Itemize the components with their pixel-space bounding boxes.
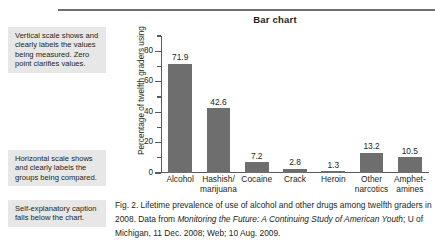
bar <box>245 162 269 173</box>
y-tick-label: 60 <box>115 76 153 85</box>
annotation-caption: Self-explanatory caption falls below the… <box>8 200 106 227</box>
y-tick-major <box>155 172 161 173</box>
y-tick-minor <box>157 35 162 36</box>
y-tick-major <box>155 142 161 143</box>
bar-group: 42.6 <box>199 36 237 173</box>
y-axis-labels: 020406080 <box>115 14 153 194</box>
y-tick-major <box>155 51 161 52</box>
x-tick-label: Othernarcotics <box>352 175 390 194</box>
bar-value-label: 2.8 <box>276 157 314 167</box>
bar <box>321 171 345 173</box>
y-tick-minor <box>157 66 162 67</box>
y-tick-label: 40 <box>115 107 153 116</box>
bar <box>360 153 384 173</box>
x-tick-label: Cocaine <box>238 175 276 185</box>
chart-title: Bar chart <box>115 14 435 25</box>
bar-value-label: 10.5 <box>391 146 429 156</box>
plot-area: 71.942.67.22.81.313.210.5 <box>161 36 429 173</box>
caption-source-title: Monitoring the Future: A Continuing Stud… <box>177 214 403 224</box>
annotation-horizontal-scale: Horizontal scale shows and clearly label… <box>8 150 106 186</box>
figure-caption: Fig. 2. Lifetime prevalence of use of al… <box>115 198 435 241</box>
bar <box>283 169 307 173</box>
bar-value-label: 71.9 <box>161 52 199 62</box>
bar-group: 13.2 <box>352 36 390 173</box>
x-tick-label: Crack <box>276 175 314 185</box>
x-tick-label: Amphet-amines <box>391 175 429 194</box>
y-tick-major <box>155 112 161 113</box>
bar-value-label: 7.2 <box>238 151 276 161</box>
y-tick-major <box>155 81 161 82</box>
bar-group: 2.8 <box>276 36 314 173</box>
y-tick-label: 20 <box>115 137 153 146</box>
bar-group: 7.2 <box>238 36 276 173</box>
bar-group: 10.5 <box>391 36 429 173</box>
x-tick-label: Heroin <box>314 175 352 185</box>
bar <box>398 157 422 173</box>
header-rule <box>58 9 435 11</box>
y-tick-minor <box>157 127 162 128</box>
bar <box>168 64 192 173</box>
bar-value-label: 13.2 <box>352 141 390 151</box>
bar-value-label: 1.3 <box>314 160 352 170</box>
x-tick-label: Hashish/marijuana <box>199 175 237 194</box>
x-tick-label: Alcohol <box>161 175 199 185</box>
y-tick-label: 0 <box>115 168 153 177</box>
bar-group: 71.9 <box>161 36 199 173</box>
y-tick-minor <box>157 96 162 97</box>
bar-chart: Bar chart Percentage of twelfth graders … <box>115 14 435 194</box>
annotation-vertical-scale: Vertical scale shows and clearly labels … <box>8 27 106 73</box>
y-tick-minor <box>157 157 162 158</box>
y-tick-label: 80 <box>115 46 153 55</box>
bar <box>207 108 231 173</box>
bar-group: 1.3 <box>314 36 352 173</box>
bar-value-label: 42.6 <box>199 97 237 107</box>
